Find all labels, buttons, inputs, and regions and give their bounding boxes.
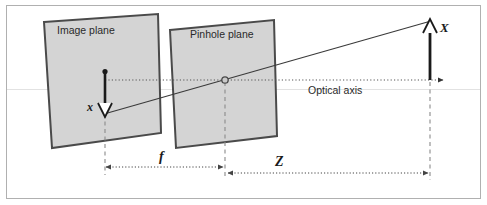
depth-symbol-label: Z bbox=[275, 155, 284, 169]
pinhole-camera-diagram: Image plane Pinhole plane Optical axis x… bbox=[0, 0, 487, 205]
pinhole-plane-label: Pinhole plane bbox=[190, 29, 254, 40]
image-point-symbol-label: x bbox=[87, 101, 93, 113]
optical-axis-label: Optical axis bbox=[308, 85, 362, 96]
image-plane-label: Image plane bbox=[57, 25, 115, 36]
object-point-symbol-label: X bbox=[440, 21, 449, 34]
focal-length-symbol-label: f bbox=[159, 150, 164, 164]
pinhole-aperture-icon bbox=[222, 77, 228, 83]
